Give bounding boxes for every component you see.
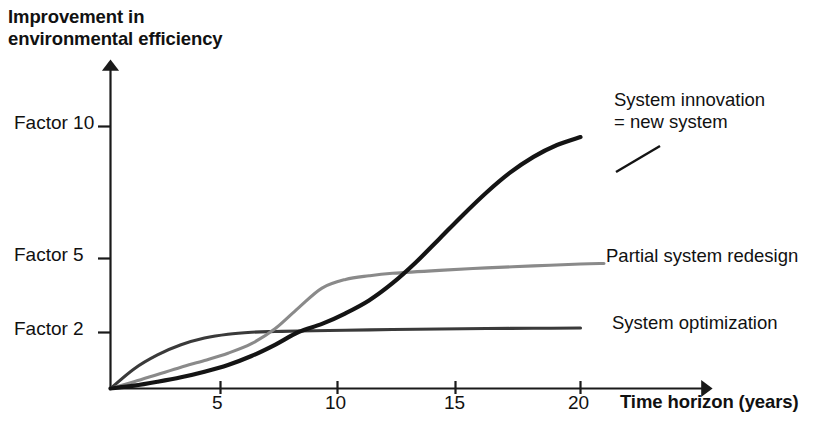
series-line-partial-system-redesign xyxy=(111,263,605,388)
series-label-partial-system-redesign: Partial system redesign xyxy=(606,245,798,267)
leader-line-system-innovation xyxy=(616,146,660,172)
series-line-system-innovation xyxy=(111,137,581,388)
chart-title-line-2: environmental efficiency xyxy=(8,28,223,49)
chart-title-line-1: Improvement in xyxy=(8,6,144,27)
x-axis-tick-label-10: 10 xyxy=(325,392,346,414)
series-label-system-innovation-line-1: System innovation xyxy=(614,89,765,110)
chart-figure: Improvement inenvironmental efficiency F… xyxy=(0,0,832,433)
page-title: Improvement inenvironmental efficiency xyxy=(8,6,223,50)
x-axis-title: Time horizon (years) xyxy=(620,391,799,413)
series-label-system-optimization: System optimization xyxy=(612,312,778,334)
series-label-system-innovation-line-2: = new system xyxy=(614,111,728,132)
y-axis-tick-label-factor-2: Factor 2 xyxy=(14,318,84,340)
x-axis-tick-label-5: 5 xyxy=(212,392,223,414)
chart-plot-area xyxy=(0,0,832,433)
x-axis-tick-label-15: 15 xyxy=(444,392,465,414)
y-axis-tick-label-factor-10: Factor 10 xyxy=(14,112,94,134)
series-label-system-innovation: System innovation= new system xyxy=(614,89,765,133)
x-axis-tick-label-20: 20 xyxy=(568,392,589,414)
y-axis-tick-label-factor-5: Factor 5 xyxy=(14,244,84,266)
